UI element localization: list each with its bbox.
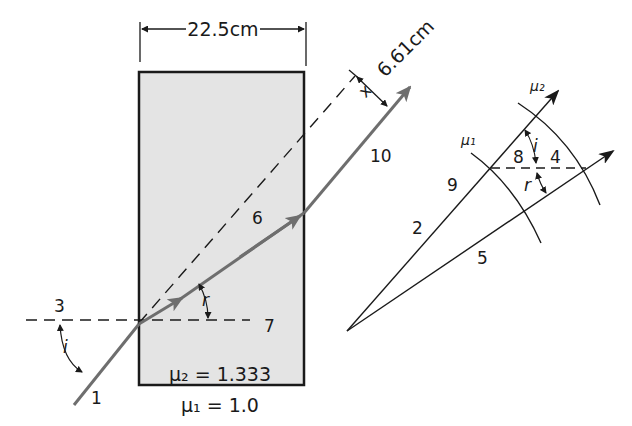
construction-ray-5	[347, 151, 613, 331]
callout-10: 10	[370, 146, 392, 166]
angle-r-label: r	[202, 290, 210, 310]
inner-medium-label: μ₂ = 1.333	[169, 363, 271, 385]
callout-5: 5	[477, 248, 488, 268]
angle-i-label: i	[63, 337, 68, 357]
arc-mu2-label: μ₂	[529, 78, 545, 94]
construction-angle-r-label: r	[524, 175, 532, 195]
emergent-ray	[304, 87, 410, 213]
callout-9: 9	[447, 175, 458, 195]
callout-8: 8	[513, 147, 524, 167]
construction-ray-2	[347, 91, 558, 331]
arc-mu1-label: μ₁	[460, 132, 476, 148]
incident-ray	[74, 324, 139, 405]
callout-4: 4	[550, 147, 561, 167]
callout-3: 3	[54, 296, 65, 316]
refraction-diagram: 22.5cm x 6.61cm i r μ₂ = 1.333 μ₁ = 1.0 …	[0, 0, 632, 426]
callout-6: 6	[252, 208, 263, 228]
callout-2: 2	[412, 218, 423, 238]
width-label: 22.5cm	[187, 18, 258, 40]
callout-1: 1	[91, 388, 102, 408]
displacement-label: 6.61cm	[372, 15, 438, 81]
construction-angle-i-label: i	[533, 136, 538, 156]
outer-medium-label: μ₁ = 1.0	[181, 394, 259, 416]
displacement-symbol: x	[354, 80, 375, 101]
arc-mu1	[471, 153, 541, 243]
construction-angle-r-arc	[537, 173, 546, 193]
callout-7: 7	[264, 316, 275, 336]
construction-diagram	[347, 91, 613, 331]
